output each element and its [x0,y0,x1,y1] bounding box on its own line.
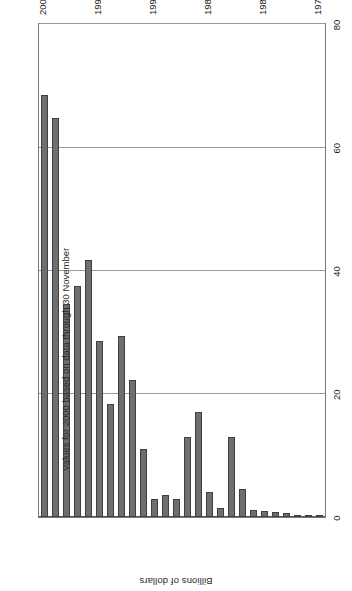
bar-1992 [129,380,136,517]
bar-1999 [52,118,59,517]
value-axis-title: Billions of dollars [0,573,352,591]
bar-1989 [162,495,169,517]
bar-1975 [316,515,323,517]
plot-area [38,23,326,518]
bar-1981 [250,510,257,517]
value-tick-60: 60 [331,128,342,168]
value-tick-20: 20 [331,375,342,415]
bar-1982 [239,489,246,517]
category-tick-1980: 1980 [257,0,268,15]
rotated-figure-wrapper: Billions of dollars 020406080 1975198019… [0,0,352,591]
bar-1976 [305,515,312,517]
bar-1983 [228,437,235,517]
bar-1977 [294,515,301,517]
category-tick-1985: 1985 [202,0,213,15]
bar-2000 [41,95,48,517]
bar-1993 [118,336,125,517]
category-tick-2000: 2000 [37,0,48,15]
value-tick-40: 40 [331,252,342,292]
gridline-80 [39,24,325,25]
bar-1985 [206,492,213,517]
value-tick-80: 80 [331,5,342,45]
bar-1980 [261,511,268,517]
bar-1978 [283,513,290,517]
gridline-60 [39,147,325,148]
value-tick-0: 0 [331,498,342,538]
bar-1990 [151,499,158,517]
category-tick-1995: 1995 [92,0,103,15]
bar-1995 [96,341,103,517]
gridline-40 [39,270,325,271]
category-tick-1990: 1990 [147,0,158,15]
bar-1994 [107,404,114,517]
category-tick-1975: 1975 [312,0,323,15]
gridline-20 [39,393,325,394]
bar-1991 [140,449,147,517]
bar-1984 [217,508,224,517]
bar-chart-figure: Billions of dollars 020406080 1975198019… [0,0,352,591]
bar-1988 [173,499,180,517]
bar-1996 [85,260,92,517]
bar-1987 [184,437,191,517]
bar-1979 [272,512,279,517]
chart-annotation: Values for 2000 based on data through 30… [60,248,71,471]
bar-1986 [195,412,202,517]
bar-1997 [74,286,81,517]
